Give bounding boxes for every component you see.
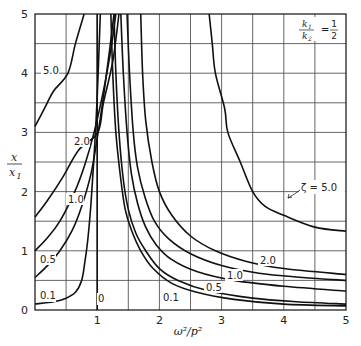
y-tick-label: 0 bbox=[21, 304, 28, 317]
curve-zeta-1.0-right bbox=[127, 14, 346, 280]
curve-zeta-0.1-right bbox=[114, 14, 346, 304]
x-tick-label: 2 bbox=[156, 314, 163, 327]
y-label-subscript: 1 bbox=[16, 172, 21, 181]
label-zeta-1.0-left: 1.0 bbox=[68, 194, 84, 205]
label-zeta-2.0-right: 2.0 bbox=[260, 255, 276, 266]
x-tick-label: 1 bbox=[94, 314, 101, 327]
curve-zeta-5.0-right bbox=[209, 14, 346, 231]
y-tick-label: 4 bbox=[21, 67, 28, 80]
annot-k1: k bbox=[302, 19, 307, 29]
curve-zeta-0-right bbox=[111, 14, 346, 306]
y-label-denominator: x bbox=[9, 166, 16, 179]
label-zeta-0.5-left: 0.5 bbox=[40, 254, 56, 265]
label-zeta-2.0-left: 2.0 bbox=[74, 136, 90, 147]
annot-k2: k bbox=[302, 31, 307, 41]
y-tick-label: 1 bbox=[21, 245, 28, 258]
annot-half-num: 1 bbox=[331, 19, 337, 29]
curve-zeta-0.5-right bbox=[121, 14, 346, 291]
y-tick-label: 3 bbox=[21, 126, 28, 139]
label-zeta-1.0-right: 1.0 bbox=[227, 270, 243, 281]
label-zeta-5.0-left: 5.0 bbox=[43, 65, 59, 76]
y-axis-label: x x 1 bbox=[7, 151, 22, 181]
x-tick-label: 3 bbox=[218, 314, 225, 327]
label-zeta-0.5-right: 0.5 bbox=[206, 282, 222, 293]
x-tick-label: 5 bbox=[343, 314, 350, 327]
zeta-annotation: ζ = 5.0 bbox=[288, 180, 345, 198]
x-tick-label: 4 bbox=[280, 314, 287, 327]
y-axis-ticks: 012345 bbox=[21, 8, 28, 317]
label-zeta-0.1-left: 0.1 bbox=[40, 290, 56, 301]
annot-k2-sub: 2 bbox=[307, 35, 312, 42]
y-tick-label: 5 bbox=[21, 8, 28, 21]
annot-half-den: 2 bbox=[331, 31, 337, 41]
x-axis-ticks: 12345 bbox=[94, 314, 350, 327]
grid-lines bbox=[35, 14, 346, 310]
x-axis-label: ω²/p² bbox=[174, 325, 203, 338]
chart: 012345 12345 x x 1 ω²/p² k 1 k 2 = 1 2 ζ… bbox=[0, 0, 361, 346]
annot-eq: = bbox=[321, 24, 329, 35]
y-tick-label: 2 bbox=[21, 186, 28, 199]
label-zeta-0: 0 bbox=[98, 293, 104, 304]
label-zeta-0.1-right: 0.1 bbox=[163, 292, 179, 303]
y-label-numerator: x bbox=[11, 151, 18, 164]
annot-k1-sub: 1 bbox=[308, 23, 312, 30]
zeta-label: ζ = 5.0 bbox=[301, 182, 337, 193]
ratio-annotation: k 1 k 2 = 1 2 bbox=[293, 17, 343, 42]
